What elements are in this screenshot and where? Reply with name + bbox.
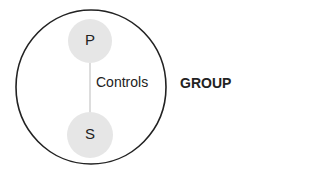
node-s-label: S <box>83 125 97 142</box>
edge-label: Controls <box>96 74 148 90</box>
node-p-label: P <box>83 31 97 48</box>
group-label: GROUP <box>180 75 231 91</box>
